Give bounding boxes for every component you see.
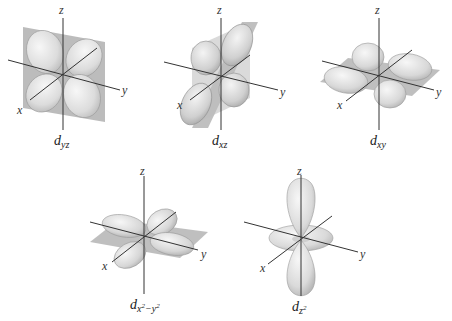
x-axis-label: x: [102, 260, 107, 272]
z-axis-label: z: [217, 4, 222, 16]
z-axis-label: z: [140, 165, 145, 177]
x-axis-label: x: [177, 99, 182, 111]
z-axis-label: z: [297, 165, 302, 177]
z-axis-label: z: [375, 4, 380, 16]
orbital-label-dxy: dxy: [370, 134, 386, 150]
dyz-orbital-graphic: [0, 0, 150, 160]
x-axis-label: x: [260, 262, 265, 274]
orbital-label-dyz: dyz: [54, 134, 69, 150]
y-axis-label: y: [201, 248, 206, 260]
orbital-panel-dx2-y2: z y x dx2−y2: [90, 160, 240, 321]
z-axis-label: z: [59, 4, 64, 16]
orbital-label-dxz: dxz: [212, 134, 227, 150]
y-axis-label: y: [122, 84, 127, 96]
y-axis-label: y: [436, 86, 441, 98]
orbital-label-dz2: dz2: [292, 300, 306, 316]
orbital-panel-dxy: z y x dxy: [300, 0, 452, 160]
orbital-label-dx2-y2: dx2−y2: [130, 298, 160, 314]
x-axis-label: x: [337, 99, 342, 111]
y-axis-label: y: [360, 248, 365, 260]
orbital-panel-dz2: z y x dz2: [230, 160, 380, 321]
y-axis-label: y: [280, 86, 285, 98]
orbital-panel-dxz: z y x dxz: [150, 0, 300, 160]
dz2-orbital-graphic: [230, 160, 380, 321]
orbital-panel-dyz: z y x dyz: [0, 0, 150, 160]
dx2-y2-orbital-graphic: [90, 160, 240, 321]
x-axis-label: x: [17, 104, 22, 116]
